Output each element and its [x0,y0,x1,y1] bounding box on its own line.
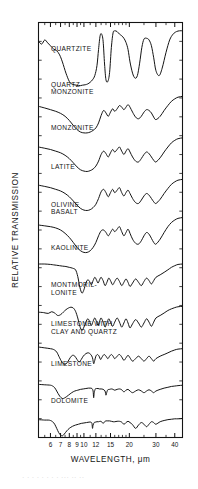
spectra-figure: 6789101215203040WAVELENGTH, μmRELATIVE T… [0,0,198,489]
curve-label: DOLOMITE [51,397,88,404]
x-tick-label: 7 [59,441,63,448]
x-tick-labels: 6789101215203040 [49,441,179,448]
x-tick-label: 10 [80,441,88,448]
x-tick-label: 30 [152,441,160,448]
curve-label: OLIVINEBASALT [51,201,80,215]
spectra-plot: 6789101215203040WAVELENGTH, μmRELATIVE T… [0,0,198,489]
curve-label: LIMESTONE [51,360,92,367]
x-tick-label: 6 [49,441,53,448]
partial-caption: · · · · · · · · ··· ·· ·· [22,474,194,486]
x-tick-label: 12 [92,441,100,448]
spectrum-curve [39,384,183,398]
curve-label: MONTMORIL-LONITE [51,281,97,295]
curve-labels: QUARTZITEQUARTZMONZONITEMONZONITELATITEO… [51,45,117,405]
curve-label: LATITE [51,163,75,170]
y-axis-title: RELATIVE TRANSMISSION [11,172,20,288]
curve-label: MONZONITE [51,124,94,131]
x-tick-label: 15 [107,441,115,448]
curve-label: LIMESTONE WITHCLAY AND QUARTZ [51,320,117,335]
x-tick-label: 9 [75,441,79,448]
curve-label: QUARTZITE [51,45,92,53]
x-tick-label: 20 [126,441,134,448]
x-tick-label: 40 [171,441,179,448]
x-axis-title: WAVELENGTH, μm [71,455,151,464]
curve-label: QUARTZMONZONITE [51,81,94,95]
curve-label: KAOLINITE [51,244,89,251]
spectrum-curve [39,31,183,86]
x-tick-label: 8 [68,441,72,448]
